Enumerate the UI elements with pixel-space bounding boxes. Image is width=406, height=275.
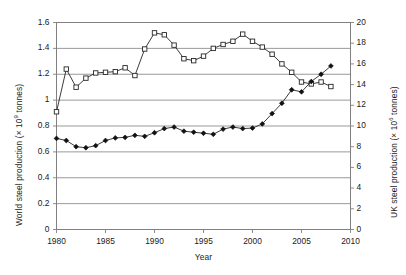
data-point-open-square bbox=[221, 42, 225, 46]
data-point-filled-diamond bbox=[211, 132, 216, 137]
data-point-open-square bbox=[319, 80, 323, 84]
data-point-filled-diamond bbox=[103, 138, 108, 143]
data-point-filled-diamond bbox=[201, 131, 206, 136]
data-point-open-square bbox=[152, 31, 156, 35]
y-right-tick-label: 8 bbox=[357, 141, 362, 151]
x-tick-label: 2010 bbox=[331, 236, 371, 246]
data-point-open-square bbox=[250, 39, 254, 43]
data-point-open-square bbox=[94, 71, 98, 75]
y-left-tick-label: 0 bbox=[0, 224, 50, 234]
y-left-tick-label: 0.4 bbox=[0, 172, 50, 182]
data-point-filled-diamond bbox=[133, 133, 138, 138]
y-right-tick-label: 6 bbox=[357, 161, 362, 171]
data-point-filled-diamond bbox=[93, 143, 98, 148]
y-left-axis-title: World steel production (× 109 tonnes) bbox=[13, 83, 24, 225]
data-point-open-square bbox=[143, 47, 147, 51]
y-left-tick-label: 0.2 bbox=[0, 198, 50, 208]
chart-figure: 00.20.40.60.811.21.41.602468101214161820… bbox=[0, 0, 406, 275]
y-right-tick-label: 14 bbox=[357, 79, 366, 89]
data-point-filled-diamond bbox=[142, 134, 147, 139]
data-point-open-square bbox=[192, 58, 196, 62]
y-right-tick-label: 0 bbox=[357, 224, 362, 234]
chart-canvas bbox=[0, 0, 406, 275]
y-left-tick-label: 0.8 bbox=[0, 120, 50, 130]
x-tick-label: 2005 bbox=[282, 236, 322, 246]
y-right-tick-label: 12 bbox=[357, 99, 366, 109]
y-left-tick-label: 1.6 bbox=[0, 17, 50, 27]
data-point-open-square bbox=[299, 80, 303, 84]
data-point-open-square bbox=[162, 33, 166, 37]
data-point-open-square bbox=[211, 46, 215, 50]
data-point-open-square bbox=[172, 43, 176, 47]
y-right-tick-label: 18 bbox=[357, 37, 366, 47]
data-point-filled-diamond bbox=[172, 125, 177, 130]
y-right-tick-label: 2 bbox=[357, 203, 362, 213]
data-point-filled-diamond bbox=[54, 136, 59, 141]
x-tick-label: 1985 bbox=[86, 236, 126, 246]
x-tick-label: 2000 bbox=[233, 236, 273, 246]
data-point-filled-diamond bbox=[221, 127, 226, 132]
data-point-filled-diamond bbox=[191, 130, 196, 135]
data-point-filled-diamond bbox=[240, 126, 245, 131]
y-right-tick-label: 16 bbox=[357, 58, 366, 68]
data-point-open-square bbox=[123, 66, 127, 70]
y-right-axis-title: UK steel production (× 106 tonnes) bbox=[388, 86, 399, 218]
data-point-open-square bbox=[103, 70, 107, 74]
y-right-tick-label: 20 bbox=[357, 17, 366, 27]
data-point-filled-diamond bbox=[113, 136, 118, 141]
data-point-open-square bbox=[270, 52, 274, 56]
data-point-open-square bbox=[54, 110, 58, 114]
data-point-open-square bbox=[280, 62, 284, 66]
y-left-tick-label: 1 bbox=[0, 94, 50, 104]
data-point-open-square bbox=[241, 32, 245, 36]
data-point-filled-diamond bbox=[182, 129, 187, 134]
data-point-filled-diamond bbox=[231, 125, 236, 130]
y-right-tick-label: 10 bbox=[357, 120, 366, 130]
x-tick-label: 1980 bbox=[37, 236, 77, 246]
x-axis-title: Year bbox=[164, 252, 244, 262]
data-point-open-square bbox=[231, 39, 235, 43]
data-point-open-square bbox=[133, 73, 137, 77]
data-point-filled-diamond bbox=[74, 144, 79, 149]
data-point-filled-diamond bbox=[152, 130, 157, 135]
y-right-tick-label: 4 bbox=[357, 182, 362, 192]
data-point-open-square bbox=[84, 76, 88, 80]
data-point-open-square bbox=[64, 67, 68, 71]
data-point-filled-diamond bbox=[123, 135, 128, 140]
data-point-open-square bbox=[113, 69, 117, 73]
y-left-tick-label: 1.4 bbox=[0, 42, 50, 52]
data-point-open-square bbox=[74, 85, 78, 89]
series-line-2 bbox=[57, 66, 331, 148]
data-point-open-square bbox=[201, 54, 205, 58]
data-point-filled-diamond bbox=[84, 145, 89, 150]
data-point-filled-diamond bbox=[162, 126, 167, 131]
data-point-open-square bbox=[329, 84, 333, 88]
y-left-tick-label: 0.6 bbox=[0, 146, 50, 156]
x-tick-label: 1995 bbox=[184, 236, 224, 246]
data-point-open-square bbox=[260, 45, 264, 49]
y-left-tick-label: 1.2 bbox=[0, 68, 50, 78]
data-point-open-square bbox=[182, 57, 186, 61]
x-tick-label: 1990 bbox=[135, 236, 175, 246]
data-point-open-square bbox=[290, 70, 294, 74]
data-point-filled-diamond bbox=[64, 138, 69, 143]
